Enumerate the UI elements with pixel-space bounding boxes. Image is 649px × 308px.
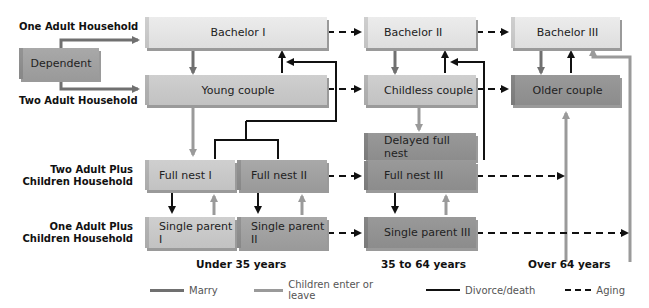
row-label-line: Children Household: [0, 233, 133, 245]
legend-item-aging: Aging: [565, 285, 625, 296]
stage-single-parent-2[interactable]: Single parent II: [237, 217, 327, 248]
row-label-line: Children Household: [0, 176, 133, 188]
legend-item-marry: Marry: [150, 285, 218, 296]
age-label-35-64: 35 to 64 years: [381, 258, 466, 270]
legend-item-children: Children enter or leave: [254, 279, 388, 301]
aging-dash-swatch: [565, 289, 591, 291]
legend: Marry Children enter or leave Divorce/de…: [150, 279, 649, 301]
stage-dependent[interactable]: Dependent: [19, 48, 99, 79]
row-label-two-adult-children: Two Adult Plus Children Household: [0, 164, 133, 188]
legend-label: Divorce/death: [465, 285, 535, 296]
stage-single-parent-1[interactable]: Single parent I: [145, 217, 235, 248]
stage-full-nest-1[interactable]: Full nest I: [145, 160, 235, 190]
row-label-line: Two Adult Plus: [0, 164, 133, 176]
legend-label: Marry: [189, 285, 218, 296]
stage-full-nest-3[interactable]: Full nest III: [364, 161, 476, 190]
row-label-line: One Adult Plus: [0, 221, 133, 233]
stage-single-parent-3[interactable]: Single parent III: [364, 217, 476, 248]
stage-older-couple[interactable]: Older couple: [511, 75, 620, 105]
stage-delayed-full-nest[interactable]: Delayed full nest: [364, 133, 476, 160]
divorce-line-swatch: [426, 289, 460, 291]
marry-line-swatch: [150, 289, 184, 292]
legend-label: Children enter or leave: [288, 279, 388, 301]
age-label-over-64: Over 64 years: [528, 258, 610, 270]
stage-childless-couple[interactable]: Childless couple: [364, 75, 476, 105]
age-label-under-35: Under 35 years: [196, 258, 286, 270]
row-label-two-adult: Two Adult Household: [19, 95, 138, 107]
stage-bachelor-3[interactable]: Bachelor III: [511, 17, 620, 48]
legend-item-divorce: Divorce/death: [426, 285, 535, 296]
stage-young-couple[interactable]: Young couple: [145, 75, 327, 105]
stage-full-nest-2[interactable]: Full nest II: [237, 160, 327, 190]
stage-bachelor-2[interactable]: Bachelor II: [364, 17, 476, 48]
children-line-swatch: [254, 289, 283, 292]
row-label-one-adult-children: One Adult Plus Children Household: [0, 221, 133, 245]
stage-bachelor-1[interactable]: Bachelor I: [145, 17, 327, 48]
row-label-one-adult: One Adult Household: [19, 21, 138, 33]
legend-label: Aging: [596, 285, 625, 296]
marry-arrows: [193, 50, 541, 73]
family-life-cycle-diagram: One Adult Household Two Adult Household …: [0, 0, 649, 308]
